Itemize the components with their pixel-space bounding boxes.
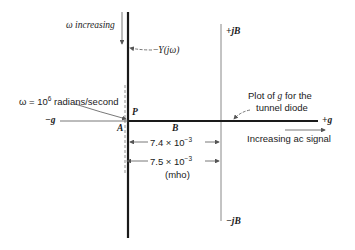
omega-increasing-label: ω increasing <box>66 20 115 31</box>
point-A-label: A <box>117 124 123 134</box>
unit-mho-label: (mho) <box>165 170 190 180</box>
point-P-label: P <box>132 108 138 118</box>
dim-7-5-label: 7.5 × 10−3 <box>150 156 192 167</box>
plot-g-label-line2: tunnel diode <box>256 103 308 113</box>
plot-g-label-line1: Plot of g for the <box>248 91 312 102</box>
point-B-label: B <box>172 124 178 134</box>
minus-g-label: −g <box>45 116 56 126</box>
neg-Y-label: −Y(jω) <box>153 45 179 56</box>
plot-g-leader <box>234 110 250 119</box>
minus-jB-label: −jB <box>226 216 241 227</box>
omega-equals-label: ω = 106 radians/second <box>19 96 119 107</box>
increasing-ac-label: Increasing ac signal <box>247 134 331 144</box>
dim-7-4-label: 7.4 × 10−3 <box>150 137 192 148</box>
plus-g-label: +g <box>322 116 332 126</box>
neg-Y-leader <box>130 48 152 50</box>
plus-jB-label: +jB <box>226 26 240 37</box>
